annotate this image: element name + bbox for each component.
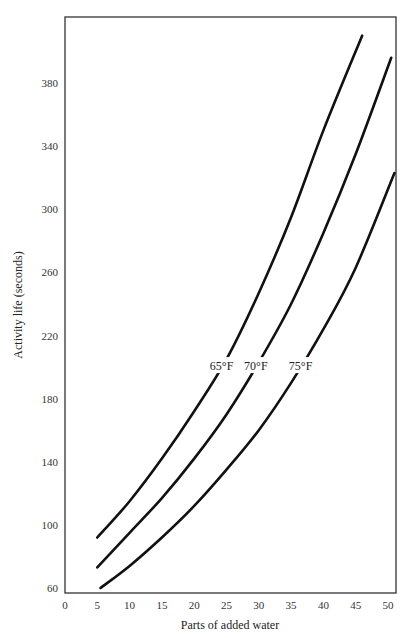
y-axis-label: Activity life (seconds) — [11, 251, 25, 358]
curve-65f — [97, 36, 362, 538]
x-axis-label: Parts of added water — [181, 618, 279, 632]
x-tick-label: 40 — [318, 599, 330, 611]
x-tick-label: 50 — [383, 599, 395, 611]
y-tick-label: 100 — [42, 519, 59, 531]
y-tick-label: 180 — [42, 393, 59, 405]
curve-labels: 65°F70°F75°F — [207, 357, 316, 373]
y-tick-label: 300 — [42, 203, 59, 215]
curve-label: 70°F — [244, 359, 268, 373]
curve-label: 75°F — [289, 359, 313, 373]
y-tick-label: 60 — [47, 582, 59, 594]
y-tick-label: 140 — [42, 456, 59, 468]
x-tick-label: 0 — [62, 599, 68, 611]
x-tick-label: 25 — [221, 599, 233, 611]
y-tick-label: 260 — [42, 266, 59, 278]
x-tick-label: 5 — [95, 599, 101, 611]
x-axis-ticks: 05101520253035404550 — [62, 599, 394, 611]
x-tick-label: 45 — [350, 599, 362, 611]
curves — [97, 36, 394, 588]
curve-70f — [97, 58, 391, 568]
x-tick-label: 35 — [286, 599, 298, 611]
curve-label: 65°F — [210, 359, 234, 373]
x-tick-label: 15 — [156, 599, 168, 611]
x-tick-label: 10 — [124, 599, 136, 611]
y-tick-label: 340 — [42, 140, 59, 152]
y-axis-ticks: 60100140180220260300340380 — [42, 77, 59, 594]
x-tick-label: 30 — [253, 599, 265, 611]
line-chart: 60100140180220260300340380 0510152025303… — [0, 0, 409, 638]
plot-frame — [65, 17, 396, 593]
x-tick-label: 20 — [189, 599, 201, 611]
y-tick-label: 380 — [42, 77, 59, 89]
y-tick-label: 220 — [42, 330, 59, 342]
